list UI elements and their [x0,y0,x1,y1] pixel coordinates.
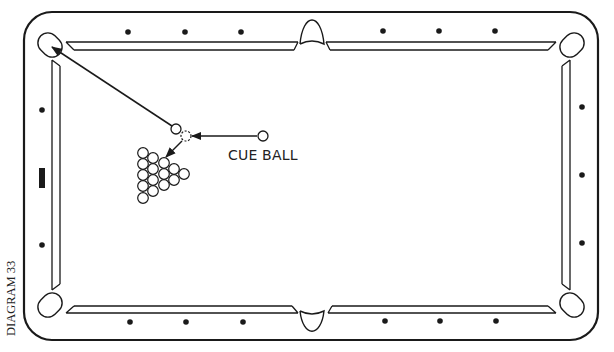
rack-ball [138,148,149,159]
diamond-marker-top [182,29,188,35]
top-left-rail [66,42,298,50]
pocket-bottom-left [34,289,67,322]
rack-ball [138,181,149,192]
pocket-bottom-right [556,289,589,322]
right-rail [562,60,570,290]
pockets [34,20,589,331]
rack-ball [159,158,170,169]
diagram-caption: DIAGRAM 33 [4,261,19,336]
rack-ball [138,170,149,181]
cue-ball-label: CUE BALL [228,147,298,163]
diamond-marker-top [380,28,386,34]
rack-ball [138,159,149,170]
head-spot-marker [39,168,45,188]
rack-ball [148,153,159,164]
rack-ball [148,175,159,186]
top-right-rail [326,42,556,50]
rack-ball [138,193,149,204]
rail-diamonds [39,28,585,325]
rack-ball [169,175,180,186]
diamond-marker-top [492,28,498,34]
pocket-top-middle [300,20,324,44]
diamond-marker-bottom [493,318,499,324]
diamond-marker-top [436,28,442,34]
diamond-marker-bottom [127,319,133,325]
shot-balls [171,124,268,141]
diamond-marker-right [579,240,585,246]
diamond-marker-left [39,242,45,248]
rack-ball [159,180,170,191]
diamond-marker-top [238,29,244,35]
table-drawing [0,0,614,352]
cue-ball [258,131,268,141]
bottom-left-rail [66,306,298,313]
diamond-marker-bottom [382,318,388,324]
diamond-marker-bottom [183,319,189,325]
table-outer-frame [24,12,598,340]
diamond-marker-left [39,107,45,113]
shot-paths [52,47,257,157]
diamond-marker-bottom [240,319,246,325]
pocket-top-left [34,29,67,62]
rack-ball [159,169,170,180]
diamond-marker-top [125,29,131,35]
object-ball-path-arrow [52,47,172,126]
outer-frame [24,12,598,340]
head-string-marker [39,168,45,188]
rack-ball [148,164,159,175]
racked-balls [138,148,190,204]
cushion-rails [52,42,570,313]
rack-ball [179,169,190,180]
bottom-right-rail [328,306,556,313]
object-ball [171,124,181,134]
diamond-marker-right [579,172,585,178]
rack-ball [169,164,180,175]
pocket-top-right [556,29,589,62]
pocket-bottom-middle [300,311,324,331]
diamond-marker-right [579,104,585,110]
rack-ball [148,186,159,197]
diamond-marker-bottom [437,318,443,324]
ghost-ball [181,131,191,141]
cue-ball-deflection-arrow [166,141,182,157]
left-rail [52,60,60,290]
pool-table-diagram: CUE BALL DIAGRAM 33 [0,0,614,352]
